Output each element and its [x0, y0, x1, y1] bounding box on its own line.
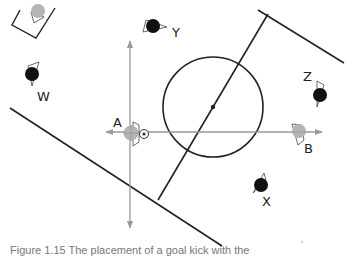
player-a-label: A	[113, 115, 122, 130]
player-z-label: Z	[303, 69, 312, 84]
player-y-label: Y	[171, 25, 180, 40]
player-w-label: W	[37, 89, 50, 104]
player-goalkeeper	[31, 4, 45, 23]
player-w: W	[25, 62, 50, 104]
player-a: A	[113, 115, 139, 146]
player-y: Y	[143, 19, 180, 40]
player-x-label: X	[262, 194, 271, 209]
player-b-label: B	[304, 141, 313, 156]
figure-caption: Figure 1.15 The placement of a goal kick…	[10, 244, 250, 256]
player-x: X	[253, 173, 271, 209]
player-z: Z	[303, 69, 327, 107]
speck	[301, 241, 303, 243]
touchline-upper-right	[258, 10, 344, 63]
ball-icon	[140, 130, 149, 139]
center-spot	[211, 105, 215, 109]
player-b: B	[292, 124, 313, 156]
